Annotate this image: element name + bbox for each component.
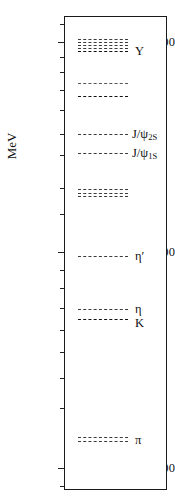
y-axis-title: MeV	[4, 116, 20, 176]
jpsi-1s-sub: 1S	[148, 151, 157, 161]
meson-mass-spectrum-figure: MeV 10000 1000 100 Υ J/ψ2S J/ψ1S	[0, 0, 175, 504]
jpsi-2s-main: J/ψ	[132, 127, 148, 141]
jpsi-1s-main: J/ψ	[132, 146, 148, 160]
level-label-jpsi-2s: J/ψ2S	[132, 128, 157, 143]
level-label-eta-prime: η′	[135, 250, 144, 262]
level-label-upsilon: Υ	[135, 45, 144, 57]
level-label-jpsi-1s: J/ψ1S	[132, 147, 157, 162]
plot-frame: Υ J/ψ2S J/ψ1S η′ η K π	[64, 16, 167, 490]
level-label-eta: η	[135, 303, 142, 315]
level-label-pion: π	[135, 434, 141, 446]
level-label-kaon: K	[135, 317, 144, 329]
jpsi-2s-sub: 2S	[148, 132, 157, 142]
